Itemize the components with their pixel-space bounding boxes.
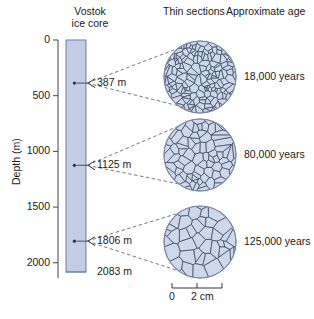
core-marker-bracket-1806 — [88, 237, 95, 246]
thin-section-circle-1 — [164, 41, 236, 114]
ice-crystal — [203, 152, 209, 161]
core-marker-1125 — [73, 164, 76, 167]
core-marker-1806 — [73, 240, 76, 243]
core-title-line2: ice core — [40, 18, 140, 29]
age-label-3: 125,000 years — [244, 236, 311, 247]
age-label-2: 80,000 years — [244, 149, 305, 160]
core-depth-label-1125: 1125 m — [97, 159, 131, 170]
scale-bar-end-label: 2 cm — [191, 291, 214, 302]
core-marker-bracket-387 — [88, 79, 95, 88]
scale-bar-start-label: 0 — [169, 291, 175, 302]
depth-tick-label-2000: 2000 — [0, 257, 50, 268]
core-depth-label-1806: 1806 m — [97, 235, 132, 246]
ice-crystal — [200, 142, 207, 153]
thin-section-circle-3 — [164, 206, 236, 279]
ice-core-figure: Vostok ice core Depth (m) Thin sections … — [0, 0, 314, 319]
ice-core-column — [66, 40, 86, 272]
depth-tick-label-1000: 1000 — [0, 145, 50, 156]
thin-sections-header: Thin sections — [163, 6, 225, 17]
depth-tick-label-500: 500 — [0, 90, 50, 101]
thin-section-circle-2 — [164, 119, 236, 192]
depth-tick-label-0: 0 — [0, 34, 50, 45]
ice-crystal — [204, 91, 210, 98]
core-bottom-depth-label: 2083 m — [97, 266, 132, 277]
approximate-age-header: Approximate age — [226, 6, 305, 17]
core-marker-387 — [73, 82, 76, 85]
core-title-line1: Vostok — [40, 6, 140, 17]
age-label-1: 18,000 years — [244, 71, 305, 82]
core-depth-label-387: 387 m — [97, 77, 126, 88]
depth-tick-label-1500: 1500 — [0, 201, 50, 212]
